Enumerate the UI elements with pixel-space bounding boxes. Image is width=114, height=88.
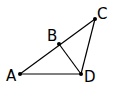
point-b [57,42,61,46]
label-b: B [47,27,57,45]
label-c: C [97,5,107,23]
label-a: A [6,67,17,85]
segment-bd [59,44,81,74]
point-d [79,72,83,76]
segment-ac [20,19,95,74]
point-a [18,72,22,76]
label-d: D [84,68,96,86]
geometry-diagram: A B C D [0,0,114,88]
segments [20,19,95,74]
